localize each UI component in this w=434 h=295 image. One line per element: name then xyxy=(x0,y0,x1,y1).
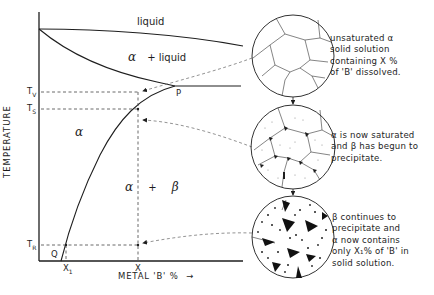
microstructure-saturated xyxy=(251,105,335,189)
tick-x1: X1 xyxy=(63,264,73,275)
region-alpha-beta-alpha: α xyxy=(125,180,133,194)
microstructure-unsaturated xyxy=(252,15,334,97)
region-alpha-liquid-text: + liquid xyxy=(147,52,186,63)
x-axis-title-text: METAL 'B' % xyxy=(118,271,179,281)
region-alpha-liquid: α + liquid xyxy=(128,48,186,64)
tick-tr: TR xyxy=(27,240,36,251)
liquidus-line xyxy=(39,29,243,46)
point-p-label: P xyxy=(176,89,181,98)
point-q-label: Q xyxy=(51,250,58,259)
tick-tv: TV xyxy=(27,87,36,98)
x-axis-title: METAL 'B' % → xyxy=(118,272,194,281)
tick-x: X xyxy=(135,264,141,273)
microstructure-precipitating xyxy=(252,196,334,278)
region-alpha-beta-beta: β xyxy=(172,180,179,194)
description-unsaturated: unsaturated α solid solution containing … xyxy=(330,33,401,79)
description-saturated: α is now saturated and β has begun to pr… xyxy=(331,130,418,164)
region-alpha-beta: α + β xyxy=(125,178,179,194)
region-liquid: liquid xyxy=(137,17,164,27)
arrow-to-ts xyxy=(143,120,252,147)
arrow-to-tr xyxy=(143,233,252,243)
region-alpha-liquid-alpha: α xyxy=(128,50,136,64)
region-alpha-beta-plus: + xyxy=(148,182,156,193)
tick-ts: TS xyxy=(27,104,36,115)
region-alpha: α xyxy=(75,126,83,138)
y-axis-title: TEMPERATURE xyxy=(2,105,12,178)
x-axis-arrow-icon: → xyxy=(186,271,194,281)
solvus-curve xyxy=(61,86,175,261)
description-precipitating: β continues to precipitate and α now con… xyxy=(332,212,409,269)
